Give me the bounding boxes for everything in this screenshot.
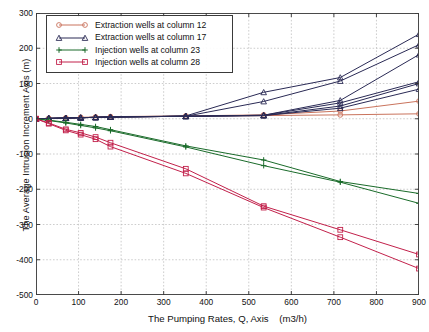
x-tick-label: 100 — [62, 298, 96, 306]
y-tick-label: 100 — [3, 80, 33, 88]
legend-item: Injection wells at column 28 — [51, 56, 229, 68]
x-tick-label: 900 — [402, 298, 429, 306]
legend-label: Injection wells at column 23 — [93, 46, 200, 55]
x-tick-label: 500 — [232, 298, 266, 306]
chart-figure: The Average Intrusion Increment Axis (m)… — [0, 0, 429, 332]
legend-marker-plus-icon — [51, 44, 93, 56]
legend-marker-triangle-icon — [51, 32, 93, 44]
x-tick-label: 0 — [19, 298, 53, 306]
y-tick-label: 200 — [3, 44, 33, 52]
legend-label: Extraction wells at column 12 — [93, 21, 206, 30]
chart-legend: Extraction wells at column 12Extraction … — [46, 15, 233, 73]
x-tick-label: 600 — [274, 298, 308, 306]
x-tick-label: 400 — [189, 298, 223, 306]
y-tick-label: 300 — [3, 9, 33, 17]
y-tick-label: -300 — [3, 221, 33, 229]
y-tick-label: 0 — [3, 115, 33, 123]
y-tick-label: -100 — [3, 150, 33, 158]
legend-item: Extraction wells at column 12 — [51, 19, 229, 31]
legend-marker-circle-icon — [51, 19, 93, 31]
legend-item: Injection wells at column 23 — [51, 44, 229, 56]
x-tick-label: 800 — [359, 298, 393, 306]
y-tick-label: -400 — [3, 256, 33, 264]
y-tick-label: -200 — [3, 185, 33, 193]
legend-marker-square-icon — [51, 56, 93, 68]
legend-label: Injection wells at column 28 — [93, 58, 200, 67]
x-tick-label: 300 — [147, 298, 181, 306]
legend-item: Extraction wells at column 17 — [51, 31, 229, 43]
x-axis-title: The Pumping Rates, Q, Axis (m3/h) — [36, 313, 419, 324]
legend-label: Extraction wells at column 17 — [93, 33, 206, 42]
x-tick-label: 700 — [317, 298, 351, 306]
x-tick-label: 200 — [104, 298, 138, 306]
y-axis-title: The Average Intrusion Increment Axis (m) — [21, 15, 31, 275]
